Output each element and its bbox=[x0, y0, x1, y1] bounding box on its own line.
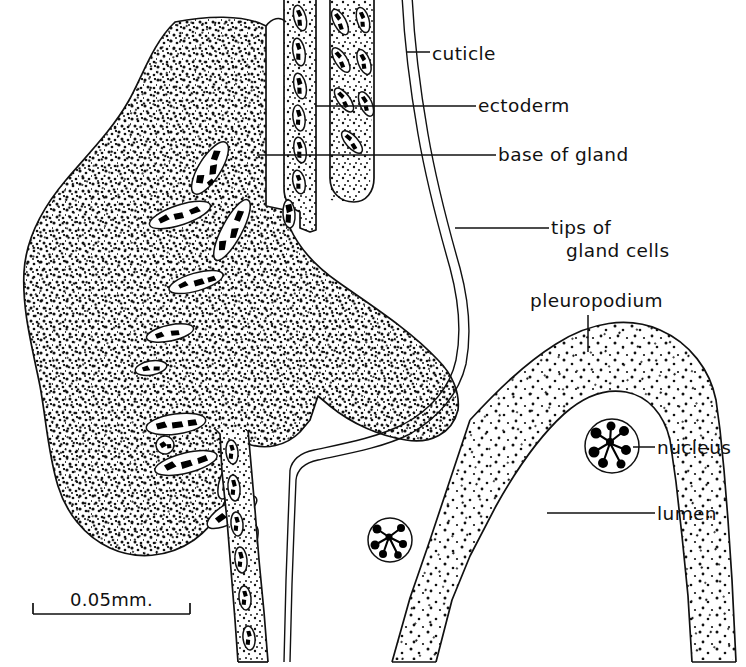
label-lumen: lumen bbox=[657, 503, 717, 524]
scale-bar-label: 0.05mm. bbox=[70, 589, 153, 610]
pleuropodium-nucleus bbox=[585, 419, 639, 473]
label-base-of-gland: base of gland bbox=[498, 144, 629, 165]
label-cuticle: cuticle bbox=[432, 43, 496, 64]
label-pleuropodium: pleuropodium bbox=[530, 290, 663, 311]
label-ectoderm: ectoderm bbox=[478, 95, 570, 116]
label-tips-of: tips of bbox=[551, 217, 611, 238]
label-gland-cells: gland cells bbox=[566, 240, 669, 261]
pleuropodium-nucleus bbox=[368, 518, 412, 562]
figure-canvas: cuticle ectoderm base of gland tips of g… bbox=[0, 0, 746, 667]
label-nucleus: nucleus bbox=[657, 437, 731, 458]
histology-figure: cuticle ectoderm base of gland tips of g… bbox=[0, 0, 746, 667]
